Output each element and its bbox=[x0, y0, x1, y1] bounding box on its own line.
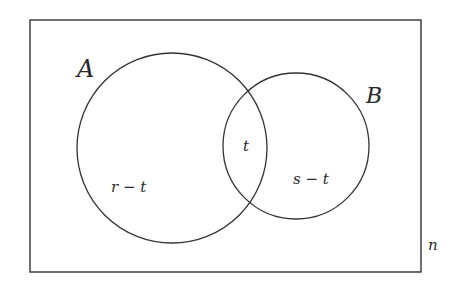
intersection-label: t bbox=[243, 137, 250, 155]
set-b-label: B bbox=[365, 83, 382, 108]
set-a-label: A bbox=[75, 55, 94, 83]
venn-diagram: A B t r − t s − t n bbox=[0, 0, 455, 288]
set-b-only-label: s − t bbox=[293, 170, 330, 188]
set-a-only-label: r − t bbox=[111, 178, 147, 196]
universe-label: n bbox=[428, 236, 438, 254]
set-a-circle bbox=[77, 53, 267, 243]
